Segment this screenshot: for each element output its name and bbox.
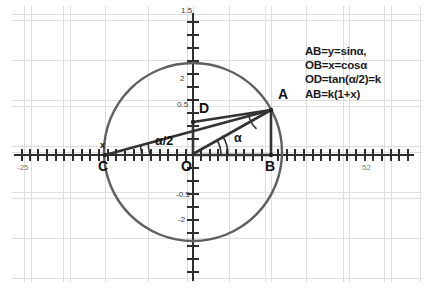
y-tick-label-1: 2	[180, 74, 184, 83]
formula-line-ab-k: AB=k(1+x)	[305, 87, 381, 101]
point-dot-C	[103, 153, 107, 157]
formula-annotation-block: AB=y=sinα, OB=x=cosα OD=tan(α/2)=k AB=k(…	[305, 44, 381, 101]
point-label-O: O	[181, 158, 192, 174]
point-dot-B	[269, 153, 273, 157]
point-label-A: A	[278, 86, 288, 102]
point-label-C: C	[98, 158, 108, 174]
construction-segments	[105, 110, 271, 155]
y-tick-label-0-5: 0.5	[177, 100, 188, 109]
point-label-D: D	[199, 100, 209, 116]
formula-line-ab-sin: AB=y=sinα,	[305, 44, 381, 58]
y-tick-label-neg-1: -2	[178, 215, 185, 224]
segment-CA	[105, 110, 271, 155]
y-tick-label-neg-0-5: -0.5	[176, 190, 190, 199]
x-tick-label-left: -25	[17, 163, 29, 172]
figure-canvas: AB=y=sinα, OB=x=cosα OD=tan(α/2)=k AB=k(…	[0, 0, 427, 288]
y-tick-label-1-5: 1.5	[181, 6, 192, 15]
angle-label-alpha: α	[234, 131, 242, 145]
formula-line-od-tan: OD=tan(α/2)=k	[305, 72, 381, 86]
point-label-x-marker: x	[100, 140, 105, 150]
point-label-B: B	[265, 158, 275, 174]
formula-line-ob-cos: OB=x=cosα	[305, 58, 381, 72]
point-dot-A	[269, 108, 273, 112]
angle-arc-alpha-inner	[217, 140, 221, 156]
x-tick-label-right: 52	[362, 163, 371, 172]
angle-label-half-alpha: α/2	[155, 134, 173, 148]
point-dot-D	[191, 120, 195, 124]
